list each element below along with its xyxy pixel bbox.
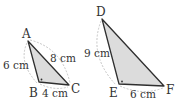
right-angle-dot-b (41, 79, 43, 81)
triangle-def-fill (102, 19, 164, 86)
triangle-def: D E F 9 cm 6 cm (84, 5, 174, 100)
side-label-ef: 6 cm (130, 88, 156, 100)
vertex-label-a: A (21, 27, 31, 41)
triangle-figure: A B C 6 cm 8 cm 4 cm D E F 9 cm 6 cm (0, 0, 186, 105)
side-label-de: 9 cm (84, 47, 110, 59)
side-label-ab: 6 cm (3, 59, 29, 71)
vertex-label-e: E (109, 86, 118, 100)
vertex-label-b: B (29, 86, 38, 100)
vertex-label-c: C (71, 82, 80, 96)
right-angle-dot-e (121, 81, 123, 83)
triangle-abc: A B C 6 cm 8 cm 4 cm (3, 27, 80, 100)
vertex-label-f: F (166, 83, 174, 97)
side-label-ac: 8 cm (50, 52, 76, 64)
side-label-bc: 4 cm (42, 87, 68, 99)
vertex-label-d: D (96, 5, 106, 19)
